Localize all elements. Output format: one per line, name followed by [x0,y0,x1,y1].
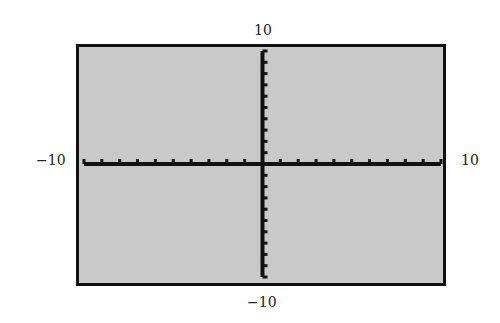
ymax-label: 10 [254,22,272,38]
ymin-label: −10 [247,294,277,310]
xmax-label: 10 [461,152,479,168]
axes [0,0,500,323]
xmin-label: −10 [36,152,66,168]
